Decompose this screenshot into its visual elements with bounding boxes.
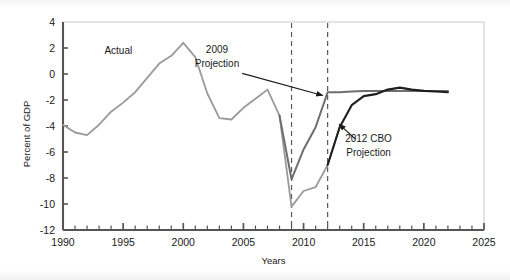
x-axis-title: Years [262, 255, 286, 266]
x-tick-label: 1995 [111, 236, 135, 248]
y-tick-label: -4 [46, 120, 55, 132]
y-tick-label: 2 [49, 42, 55, 54]
y-tick-label: 0 [49, 68, 55, 80]
x-tick-label: 2005 [232, 236, 256, 248]
arrow-2009-projection [242, 73, 323, 95]
chart-annotations: Actual2009Projection2012 CBOProjection [104, 44, 392, 158]
x-tick-label: 1990 [51, 236, 75, 248]
y-tick-label: -6 [46, 146, 55, 158]
y-tick-label: 4 [49, 16, 55, 28]
y-tick-label: -10 [40, 198, 55, 210]
y-tick-label: -12 [40, 224, 55, 236]
y-tick-label: -2 [46, 94, 55, 106]
x-tick-label: 2020 [412, 236, 436, 248]
deficit-chart: 420-2-4-6-8-10-12 1990199520002005201020… [0, 0, 510, 280]
x-axis: 19901995200020052010201520202025 [51, 223, 496, 248]
data-series [63, 43, 448, 207]
annotation-label: Projection [346, 147, 390, 158]
annotation-label: 2009 [206, 44, 229, 55]
x-tick-label: 2000 [172, 236, 196, 248]
annotation-label: Actual [104, 45, 132, 56]
annotation-label: Projection [195, 58, 239, 69]
x-tick-label: 2010 [292, 236, 316, 248]
y-tick-label: -8 [46, 172, 55, 184]
y-axis-title: Percent of GDP [21, 101, 32, 168]
x-tick-label: 2015 [352, 236, 376, 248]
x-tick-label: 2025 [472, 236, 496, 248]
figure-container: 420-2-4-6-8-10-12 1990199520002005201020… [0, 0, 510, 280]
annotation-label: 2012 CBO [345, 133, 392, 144]
